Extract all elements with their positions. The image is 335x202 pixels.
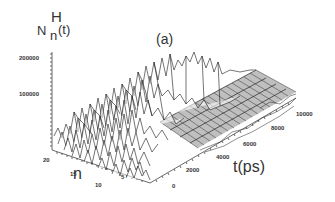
t-tick-label: 0 [172, 183, 175, 189]
n-tick-label: 20 [43, 157, 50, 163]
z-tick-label: 100000 [19, 91, 39, 97]
t-tick-label: 4000 [216, 154, 229, 160]
n-tick-label: 10 [95, 182, 102, 188]
t-tick-label: 8000 [271, 125, 284, 131]
z-axis-title-sub: n [50, 28, 57, 43]
z-axis-title-prefix: N [37, 23, 46, 38]
t-tick-label: 10000 [296, 111, 313, 117]
n-tick-label: 5 [121, 174, 124, 180]
t-axis-title: t(ps) [233, 158, 265, 176]
z-axis [50, 52, 52, 150]
panel-label: (a) [156, 31, 173, 47]
z-axis-title-suffix: (t) [58, 22, 70, 37]
z-tick-label: 200000 [19, 55, 39, 61]
t-tick-label: 2000 [186, 167, 199, 173]
t-tick-label: 6000 [243, 141, 256, 147]
n-axis-title: n [73, 165, 82, 183]
